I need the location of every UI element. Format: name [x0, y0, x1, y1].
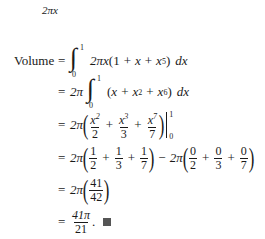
equals-sign: = — [58, 214, 65, 230]
integral-sign: ∫ 1 0 — [70, 46, 84, 76]
equals-sign: = — [58, 182, 65, 198]
step-2-expression: 2π ∫ 1 0 (x +x2 +x6) dx — [70, 77, 189, 107]
step-6-expression: 41π21 . — [70, 209, 111, 236]
step-4-expression: 2π ( 12 + 13 + 17 ) − 2π ( 02 + 03 + 07 … — [70, 143, 254, 173]
evaluation-bar: 1 0 — [164, 110, 174, 140]
volume-label: Volume — [14, 53, 54, 69]
step-3-expression: 2π ( x22 + x33 + x77 ) 1 0 — [70, 110, 174, 141]
step-5-expression: 2π ( 4142 ) — [70, 175, 110, 205]
integral-sign: ∫ 1 0 — [87, 77, 101, 107]
top-label-2pix: 2πx — [42, 4, 58, 16]
equals-sign: = — [58, 150, 65, 166]
equals-sign: = — [58, 84, 65, 100]
equals-sign: = — [58, 117, 65, 133]
equals-sign: = — [58, 53, 65, 69]
qed-square-icon — [103, 218, 111, 226]
step-1-expression: ∫ 1 0 2πx(1 +x +x5) dx — [70, 46, 188, 76]
